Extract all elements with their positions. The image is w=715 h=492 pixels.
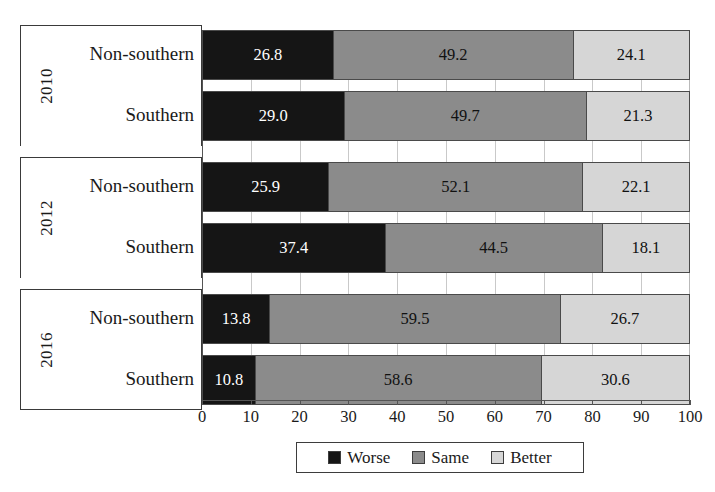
year-group-2016: 2016 bbox=[20, 289, 202, 410]
bar-segment-better: 24.1 bbox=[573, 30, 690, 80]
x-tick-70 bbox=[544, 400, 545, 405]
bar-row: 10.858.630.6 bbox=[202, 355, 690, 405]
legend-swatch-same bbox=[412, 451, 425, 464]
year-label-2012: 2012 bbox=[37, 188, 57, 248]
gridline-70 bbox=[544, 30, 545, 400]
bar-segment-worse: 13.8 bbox=[202, 294, 269, 344]
x-tick-10 bbox=[251, 400, 252, 405]
plot-area: 26.849.224.129.049.721.325.952.122.137.4… bbox=[202, 30, 690, 400]
bar-segment-value: 13.8 bbox=[222, 309, 251, 329]
bar-segment-worse: 25.9 bbox=[202, 162, 328, 212]
bar-segment-value: 30.6 bbox=[601, 370, 630, 390]
bar-segment-same: 49.2 bbox=[333, 30, 573, 80]
bar-segment-value: 18.1 bbox=[631, 238, 660, 258]
bar-segment-value: 25.9 bbox=[251, 177, 280, 197]
x-tick-0 bbox=[202, 400, 203, 405]
x-tick-30 bbox=[348, 400, 349, 405]
x-tick-label-30: 30 bbox=[340, 407, 357, 427]
bar-segment-value: 44.5 bbox=[479, 238, 508, 258]
x-tick-label-100: 100 bbox=[678, 407, 703, 427]
bar-segment-value: 49.2 bbox=[439, 45, 468, 65]
bar-segment-value: 21.3 bbox=[624, 106, 653, 126]
legend-label-better: Better bbox=[510, 449, 552, 466]
bar-segment-value: 26.7 bbox=[610, 309, 639, 329]
x-tick-90 bbox=[641, 400, 642, 405]
bar-row: 37.444.518.1 bbox=[202, 223, 690, 273]
bar-segment-better: 30.6 bbox=[541, 355, 690, 405]
stacked-bar-chart: Non-southernSouthern2010Non-southernSout… bbox=[0, 0, 715, 492]
legend-label-same: Same bbox=[431, 449, 469, 466]
bar-segment-same: 49.7 bbox=[344, 91, 587, 141]
bar-segment-same: 58.6 bbox=[255, 355, 541, 405]
legend-swatch-worse bbox=[328, 451, 341, 464]
gridline-20 bbox=[300, 30, 301, 400]
x-tick-100 bbox=[690, 400, 691, 405]
x-tick-80 bbox=[592, 400, 593, 405]
year-label-2016: 2016 bbox=[37, 320, 57, 380]
year-label-2010: 2010 bbox=[37, 56, 57, 116]
x-tick-label-10: 10 bbox=[243, 407, 260, 427]
x-tick-60 bbox=[495, 400, 496, 405]
x-tick-label-0: 0 bbox=[198, 407, 206, 427]
gridline-50 bbox=[446, 30, 447, 400]
bar-row: 13.859.526.7 bbox=[202, 294, 690, 344]
year-group-2010: 2010 bbox=[20, 25, 202, 146]
bar-segment-same: 44.5 bbox=[385, 223, 602, 273]
bar-segment-worse: 26.8 bbox=[202, 30, 333, 80]
bar-segment-value: 10.8 bbox=[214, 370, 243, 390]
bar-segment-same: 59.5 bbox=[269, 294, 559, 344]
bar-row: 26.849.224.1 bbox=[202, 30, 690, 80]
row-label-table: Non-southernSouthern2010Non-southernSout… bbox=[20, 30, 202, 400]
gridline-40 bbox=[397, 30, 398, 400]
gridline-60 bbox=[495, 30, 496, 400]
bar-segment-worse: 10.8 bbox=[202, 355, 255, 405]
legend-item-same: Same bbox=[412, 449, 469, 466]
bar-segment-value: 24.1 bbox=[617, 45, 646, 65]
x-tick-50 bbox=[446, 400, 447, 405]
bar-segment-value: 59.5 bbox=[401, 309, 430, 329]
x-tick-label-20: 20 bbox=[291, 407, 308, 427]
bar-segment-worse: 37.4 bbox=[202, 223, 385, 273]
x-tick-20 bbox=[300, 400, 301, 405]
bar-segment-value: 26.8 bbox=[253, 45, 282, 65]
bar-segment-value: 49.7 bbox=[451, 106, 480, 126]
x-tick-label-80: 80 bbox=[584, 407, 601, 427]
bar-segment-value: 58.6 bbox=[384, 370, 413, 390]
bar-row: 25.952.122.1 bbox=[202, 162, 690, 212]
x-tick-label-50: 50 bbox=[438, 407, 455, 427]
x-tick-label-60: 60 bbox=[487, 407, 504, 427]
bar-segment-better: 21.3 bbox=[586, 91, 690, 141]
bar-segment-worse: 29.0 bbox=[202, 91, 344, 141]
bar-segment-same: 52.1 bbox=[328, 162, 582, 212]
gridline-80 bbox=[592, 30, 593, 400]
legend-item-worse: Worse bbox=[328, 449, 390, 466]
bar-segment-better: 26.7 bbox=[560, 294, 690, 344]
x-tick-label-70: 70 bbox=[535, 407, 552, 427]
bar-segment-better: 18.1 bbox=[602, 223, 690, 273]
bar-segment-better: 22.1 bbox=[582, 162, 690, 212]
x-tick-40 bbox=[397, 400, 398, 405]
legend-label-worse: Worse bbox=[347, 449, 390, 466]
gridline-90 bbox=[641, 30, 642, 400]
legend-swatch-better bbox=[491, 451, 504, 464]
gridline-10 bbox=[251, 30, 252, 400]
year-group-2012: 2012 bbox=[20, 157, 202, 278]
x-axis: 0102030405060708090100 bbox=[202, 400, 690, 430]
bar-segment-value: 29.0 bbox=[259, 106, 288, 126]
x-tick-label-40: 40 bbox=[389, 407, 406, 427]
bar-row: 29.049.721.3 bbox=[202, 91, 690, 141]
x-tick-label-90: 90 bbox=[633, 407, 650, 427]
chart-legend: WorseSameBetter bbox=[296, 442, 584, 473]
gridline-30 bbox=[348, 30, 349, 400]
bar-segment-value: 52.1 bbox=[441, 177, 470, 197]
bar-segment-value: 37.4 bbox=[279, 238, 308, 258]
bar-segment-value: 22.1 bbox=[622, 177, 651, 197]
legend-item-better: Better bbox=[491, 449, 552, 466]
